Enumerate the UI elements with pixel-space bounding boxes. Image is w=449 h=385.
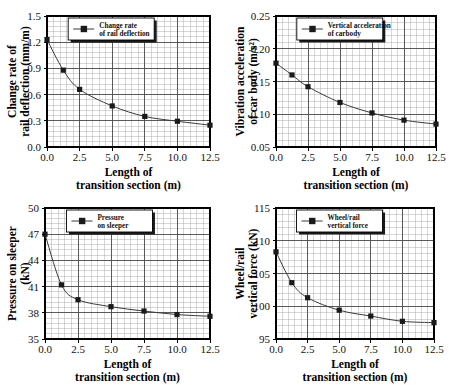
x-axis-title-line2: transition section (m) (76, 179, 181, 192)
x-tick-label: 7.5 (364, 343, 378, 355)
y-axis-title-line1: Pressure on sleeper (6, 226, 19, 321)
x-tick-label: 7.5 (138, 151, 152, 163)
y-axis-title: Vibration accelerationof car body (m/s²) (234, 26, 260, 136)
legend-label-line2: of rail deflection (99, 30, 149, 38)
y-axis-title: Change rate ofrail deflection (mm/m) (6, 26, 32, 137)
legend-label-line2: of carbody (328, 30, 361, 38)
data-point-marker (75, 297, 80, 302)
y-axis-title-line2: vertical force (kN) (247, 228, 260, 318)
data-point-marker (59, 282, 64, 287)
data-point-marker (175, 119, 180, 124)
data-point-marker (401, 118, 406, 123)
data-point-marker (273, 61, 278, 66)
x-axis-title-line1: Length of (104, 358, 152, 371)
x-tick-label: 12.5 (426, 151, 446, 163)
x-tick-label: 0.0 (40, 151, 54, 163)
legend-sample-marker (309, 26, 315, 32)
y-tick-label: 0.25 (251, 10, 271, 22)
legend: Pressureon sleeper (66, 210, 155, 235)
x-tick-label: 12.5 (200, 343, 220, 355)
y-tick-label: 1.5 (27, 10, 41, 22)
data-point-marker (305, 295, 310, 300)
x-tick-label: 5.0 (333, 151, 347, 163)
x-tick-labels: 0.02.55.07.510.012.5 (269, 151, 446, 163)
legend-label-line1: Pressure (97, 214, 123, 222)
y-tick-label: 95 (259, 333, 271, 345)
data-point-marker (369, 110, 374, 115)
data-point-marker (141, 308, 146, 313)
x-tick-label: 2.5 (301, 151, 315, 163)
y-axis-title-line1: Wheel/rail (234, 248, 246, 300)
y-axis-title: Wheel/railvertical force (kN) (234, 228, 260, 318)
y-axis-title-line2: rail deflection (mm/m) (19, 26, 32, 137)
data-point-marker (142, 114, 147, 119)
x-tick-label: 5.0 (105, 151, 119, 163)
data-point-marker (337, 308, 342, 313)
legend-label-line1: Vertical acceleration (328, 22, 391, 30)
y-axis-title-line2: (kN) (19, 262, 32, 285)
data-point-marker (110, 103, 115, 108)
y-axis-title-line2: of car body (m/s²) (247, 38, 260, 125)
x-tick-label: 10.0 (168, 151, 188, 163)
x-tick-label: 2.5 (73, 151, 87, 163)
panel-change-rate-rail-deflection: 0.02.55.07.510.012.50.00.30.60.91.21.5Le… (0, 0, 224, 193)
x-axis-title-line2: transition section (m) (75, 371, 180, 384)
data-point-marker (433, 121, 438, 126)
x-tick-label: 2.5 (301, 343, 315, 355)
legend-label-line2: vertical force (328, 222, 368, 230)
panel-pressure-on-sleeper: 0.02.55.07.510.012.5353841444750Length o… (0, 193, 224, 385)
legend-sample-marker (81, 26, 87, 32)
y-tick-label: 115 (254, 202, 271, 214)
legend-label-line2: on sleeper (97, 222, 129, 230)
x-tick-label: 7.5 (365, 151, 379, 163)
x-tick-labels: 0.02.55.07.510.012.5 (40, 151, 220, 163)
x-tick-label: 0.0 (269, 343, 283, 355)
x-axis-title-line2: transition section (m) (304, 179, 409, 192)
data-point-marker (108, 304, 113, 309)
y-tick-label: 0.0 (27, 141, 41, 153)
y-tick-label: 35 (28, 333, 40, 345)
data-point-marker (44, 37, 49, 42)
legend-label-line1: Wheel/rail (328, 214, 360, 222)
data-point-marker (289, 72, 294, 77)
data-point-marker (337, 100, 342, 105)
y-tick-label: 0.05 (251, 141, 271, 153)
data-point-marker (400, 319, 405, 324)
data-point-marker (431, 320, 436, 325)
x-axis-title-line1: Length of (105, 166, 153, 179)
x-tick-label: 0.0 (38, 343, 52, 355)
legend-sample-marker (309, 218, 315, 224)
legend: Wheel/railvertical force (297, 210, 386, 235)
x-tick-label: 2.5 (71, 343, 85, 355)
x-tick-label: 0.0 (269, 151, 283, 163)
x-tick-label: 12.5 (200, 151, 220, 163)
x-tick-label: 5.0 (332, 343, 346, 355)
x-tick-label: 10.0 (394, 151, 414, 163)
data-point-marker (77, 87, 82, 92)
panel-wheel-rail-vertical-force: 0.02.55.07.510.012.595100105110115Length… (224, 193, 449, 385)
y-axis-title-line1: Vibration acceleration (234, 26, 246, 136)
data-point-marker (289, 280, 294, 285)
y-axis-title-line1: Change rate of (6, 45, 19, 118)
x-tick-labels: 0.02.55.07.510.012.5 (38, 343, 220, 355)
x-tick-labels: 0.02.55.07.510.012.5 (269, 343, 444, 355)
legend: Vertical accelerationof carbody (297, 18, 391, 43)
data-point-marker (174, 312, 179, 317)
x-axis-title-line2: transition section (m) (303, 371, 408, 384)
panel-vibration-acceleration-car-body: 0.02.55.07.510.012.50.050.100.150.200.25… (224, 0, 449, 193)
data-point-marker (368, 313, 373, 318)
x-tick-label: 10.0 (167, 343, 187, 355)
y-tick-label: 50 (28, 202, 40, 214)
y-tick-label: 38 (28, 307, 40, 319)
data-point-marker (305, 84, 310, 89)
data-point-marker (61, 68, 66, 73)
data-point-marker (207, 123, 212, 128)
legend-sample-marker (79, 218, 85, 224)
x-tick-label: 12.5 (424, 343, 444, 355)
x-axis-title-line1: Length of (332, 166, 380, 179)
x-axis-title-line1: Length of (331, 358, 379, 371)
data-point-marker (273, 249, 278, 254)
legend-label-line1: Change rate (99, 22, 137, 30)
y-tick-label: 47 (28, 228, 40, 240)
figure-panel-grid: 0.02.55.07.510.012.50.00.30.60.91.21.5Le… (0, 0, 449, 385)
